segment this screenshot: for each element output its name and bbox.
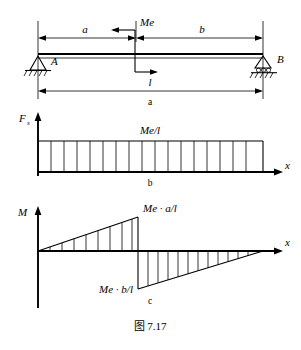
figure-canvas: a b Me xyxy=(0,0,301,350)
roller-support-B: B xyxy=(250,53,284,78)
shear-force-diagram: F s x xyxy=(18,112,290,188)
moment-positive-hatching xyxy=(50,219,132,251)
shear-x-axis-label: x xyxy=(284,159,290,171)
dimension-a-label: a xyxy=(82,23,88,35)
moment-peak-positive-label: Me · a/l xyxy=(142,202,177,214)
applied-couple-Me: Me xyxy=(111,16,158,75)
figure-caption: 图 7.17 xyxy=(134,320,168,332)
support-label-B: B xyxy=(277,53,284,65)
moment-positive-triangle xyxy=(38,217,138,251)
shear-y-axis-label: F xyxy=(18,112,26,124)
shear-x-axis: x xyxy=(38,159,290,175)
bending-moment-diagram: M x xyxy=(17,202,290,308)
moment-y-axis-label: M xyxy=(17,206,28,218)
dimension-a: a xyxy=(38,23,136,41)
panel-tag-c: c xyxy=(148,296,152,306)
beam-panel: a b Me xyxy=(24,16,284,107)
moment-negative-triangle xyxy=(138,251,263,289)
panel-tag-a: a xyxy=(148,97,153,107)
dimension-b-label: b xyxy=(199,23,205,35)
moment-x-axis-label: x xyxy=(284,236,290,248)
shear-y-axis: F s xyxy=(18,112,41,176)
moment-negative-hatching xyxy=(148,251,248,286)
dimension-b: b xyxy=(136,23,263,41)
moment-x-axis: x xyxy=(38,236,290,254)
figure-7-17: a b Me xyxy=(0,0,301,350)
dimension-l-label: l xyxy=(148,76,151,88)
moment-peak-negative-label: Me · b/l xyxy=(98,283,133,295)
beam-member xyxy=(38,54,263,58)
load-label-Me: Me xyxy=(139,16,154,28)
panel-tag-b: b xyxy=(148,178,153,188)
shear-value-label: Me/l xyxy=(139,124,160,136)
support-label-A: A xyxy=(50,55,58,67)
shear-y-axis-sublabel: s xyxy=(27,119,30,127)
dimension-l: l xyxy=(38,76,263,94)
shear-hatching xyxy=(51,141,246,172)
moment-y-axis: M xyxy=(17,206,41,308)
